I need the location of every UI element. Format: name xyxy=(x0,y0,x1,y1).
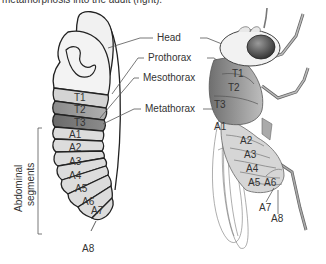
larva-label-a1: A1 xyxy=(69,129,82,140)
adult-label-t1: T1 xyxy=(232,68,244,79)
adult-label-a1: A1 xyxy=(214,121,227,132)
adult-label-a2: A2 xyxy=(240,135,253,146)
abdominal-label-line1: Abdominal xyxy=(13,165,24,212)
adult-label-a3: A3 xyxy=(244,149,257,160)
adult-label-t2: T2 xyxy=(228,82,240,93)
adult-illustration: T1 T2 T3 A1 A2 A3 A4 A5 A6 A7 A8 xyxy=(209,8,308,248)
callout-metathorax: Metathorax xyxy=(145,103,195,114)
larva-label-t3: T3 xyxy=(74,117,86,128)
callout-mesothorax: Mesothorax xyxy=(143,72,195,83)
adult-label-a7: A7 xyxy=(259,202,272,213)
larva-label-a3: A3 xyxy=(69,156,82,167)
abdominal-label-line2: segments xyxy=(25,163,36,206)
adult-compound-eye xyxy=(247,35,275,59)
larva-label-a2: A2 xyxy=(69,142,82,153)
adult-label-a5: A5 xyxy=(248,177,261,188)
larva-label-t2: T2 xyxy=(74,104,86,115)
larva-label-a7: A7 xyxy=(91,205,104,216)
insect-diagram: T1 T2 T3 A1 A2 A3 A4 A5 A6 A7 A8 Abdomin… xyxy=(0,0,326,264)
callout-head: Head xyxy=(157,32,181,43)
larva-label-a5: A5 xyxy=(75,183,88,194)
adult-label-t3: T3 xyxy=(214,99,226,110)
adult-label-a4: A4 xyxy=(246,163,259,174)
larva-label-t1: T1 xyxy=(74,92,86,103)
adult-label-a6: A6 xyxy=(264,177,277,188)
adult-label-a8: A8 xyxy=(271,213,284,224)
callout-prothorax: Prothorax xyxy=(148,52,191,63)
larva-label-a4: A4 xyxy=(69,170,82,181)
larva-label-a8: A8 xyxy=(82,243,95,254)
larva-illustration: T1 T2 T3 A1 A2 A3 A4 A5 A6 A7 A8 Abdomin… xyxy=(13,12,120,254)
